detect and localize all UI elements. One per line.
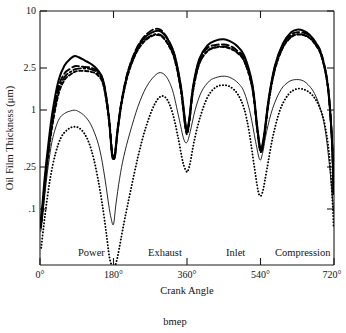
y-axis-title: Oil Film Thickness (μm) [4,85,16,190]
x-tick-label-180: 180° [104,269,123,280]
x-axis-title: Crank Angle [160,285,214,296]
annotation-exhaust: Exhaust [148,247,182,258]
y-tick-label-025: .25 [24,161,37,172]
x-tick-label-0: 0° [36,269,45,280]
y-tick-label-10: 10 [26,5,36,16]
figure-container: 10 2.5 1 .25 .1 0° 180° 360° 540° 720° [0,0,346,333]
annotation-power: Power [78,247,105,258]
y-tick-label-1: 1 [31,104,36,115]
figure-caption: bmep [163,316,186,327]
x-tick-label-540: 540° [251,269,270,280]
x-tick-label-360: 360° [178,269,197,280]
y-tick-label-01: .1 [29,203,37,214]
oil-film-thickness-chart: 10 2.5 1 .25 .1 0° 180° 360° 540° 720° [0,0,346,333]
annotation-compression: Compression [275,247,331,258]
annotation-inlet: Inlet [226,247,245,258]
x-tick-label-720: 720° [323,269,342,280]
y-tick-label-2.5: 2.5 [24,62,37,73]
